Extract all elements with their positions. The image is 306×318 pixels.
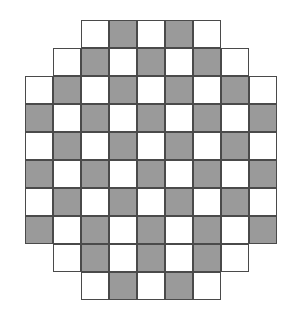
checker-cell-light-r7-c7 [221, 216, 249, 244]
checker-cell-light-r8-c7 [221, 244, 249, 272]
checker-cell-light-r6-c8 [249, 188, 277, 216]
checker-cell-dark-r8-c2 [81, 244, 109, 272]
checker-cell-light-r0-c2 [81, 20, 109, 48]
checker-cell-dark-r0-c5 [165, 20, 193, 48]
checker-cell-dark-r4-c3 [109, 132, 137, 160]
checker-cell-light-r8-c1 [53, 244, 81, 272]
checker-cell-light-r4-c8 [249, 132, 277, 160]
checker-cell-light-r8-c3 [109, 244, 137, 272]
checker-cell-dark-r0-c3 [109, 20, 137, 48]
checker-cell-dark-r1-c2 [81, 48, 109, 76]
checker-cell-light-r1-c7 [221, 48, 249, 76]
figure-root [0, 0, 306, 318]
octagonal-checkerboard [0, 0, 306, 318]
checker-cell-light-r3-c1 [53, 104, 81, 132]
checker-cell-dark-r2-c1 [53, 76, 81, 104]
checker-cell-dark-r1-c6 [193, 48, 221, 76]
checker-cell-light-r5-c3 [109, 160, 137, 188]
checker-cell-light-r2-c8 [249, 76, 277, 104]
checker-cell-light-r5-c7 [221, 160, 249, 188]
checker-cell-dark-r9-c5 [165, 272, 193, 300]
checker-cell-dark-r3-c8 [249, 104, 277, 132]
checker-cell-light-r0-c6 [193, 20, 221, 48]
checker-cell-dark-r3-c0 [25, 104, 53, 132]
checker-cell-light-r7-c3 [109, 216, 137, 244]
checker-cell-dark-r8-c6 [193, 244, 221, 272]
checker-cell-dark-r8-c4 [137, 244, 165, 272]
checker-cell-dark-r6-c3 [109, 188, 137, 216]
checker-cell-light-r2-c6 [193, 76, 221, 104]
checker-cell-light-r2-c0 [25, 76, 53, 104]
checker-cell-light-r8-c5 [165, 244, 193, 272]
checker-cell-dark-r3-c6 [193, 104, 221, 132]
checker-cell-light-r9-c4 [137, 272, 165, 300]
checker-cell-dark-r5-c8 [249, 160, 277, 188]
checker-cell-dark-r7-c2 [81, 216, 109, 244]
checker-cell-dark-r6-c1 [53, 188, 81, 216]
checker-cell-light-r4-c6 [193, 132, 221, 160]
checker-cell-light-r4-c0 [25, 132, 53, 160]
checker-cell-light-r5-c1 [53, 160, 81, 188]
checker-cell-dark-r7-c4 [137, 216, 165, 244]
checker-cell-light-r1-c3 [109, 48, 137, 76]
checker-cell-light-r3-c7 [221, 104, 249, 132]
checker-cell-dark-r7-c0 [25, 216, 53, 244]
checker-cell-light-r1-c1 [53, 48, 81, 76]
checker-cell-light-r5-c5 [165, 160, 193, 188]
checker-cell-light-r7-c5 [165, 216, 193, 244]
checker-cell-light-r2-c2 [81, 76, 109, 104]
checker-cell-dark-r7-c6 [193, 216, 221, 244]
checker-cell-dark-r2-c5 [165, 76, 193, 104]
checker-cell-dark-r7-c8 [249, 216, 277, 244]
checker-cell-light-r6-c2 [81, 188, 109, 216]
checker-cell-dark-r4-c7 [221, 132, 249, 160]
checker-cell-light-r7-c1 [53, 216, 81, 244]
checker-cell-dark-r4-c1 [53, 132, 81, 160]
checker-cell-dark-r6-c7 [221, 188, 249, 216]
checker-cell-light-r0-c4 [137, 20, 165, 48]
checker-cell-dark-r5-c4 [137, 160, 165, 188]
checker-cell-dark-r6-c5 [165, 188, 193, 216]
checker-cell-light-r3-c5 [165, 104, 193, 132]
checker-cell-dark-r2-c3 [109, 76, 137, 104]
checker-cell-light-r6-c6 [193, 188, 221, 216]
checker-cell-light-r1-c5 [165, 48, 193, 76]
checker-cell-dark-r5-c6 [193, 160, 221, 188]
checker-cell-dark-r3-c4 [137, 104, 165, 132]
checker-cell-light-r9-c6 [193, 272, 221, 300]
checker-cell-light-r3-c3 [109, 104, 137, 132]
checker-cell-dark-r5-c2 [81, 160, 109, 188]
checker-cell-dark-r1-c4 [137, 48, 165, 76]
checker-cell-dark-r3-c2 [81, 104, 109, 132]
checker-cell-light-r4-c4 [137, 132, 165, 160]
checker-cell-dark-r2-c7 [221, 76, 249, 104]
checker-cell-dark-r5-c0 [25, 160, 53, 188]
checker-cell-light-r9-c2 [81, 272, 109, 300]
checker-cell-light-r2-c4 [137, 76, 165, 104]
checker-cell-light-r6-c0 [25, 188, 53, 216]
checker-cell-light-r6-c4 [137, 188, 165, 216]
checker-cell-dark-r9-c3 [109, 272, 137, 300]
checker-cell-light-r4-c2 [81, 132, 109, 160]
checker-cell-dark-r4-c5 [165, 132, 193, 160]
